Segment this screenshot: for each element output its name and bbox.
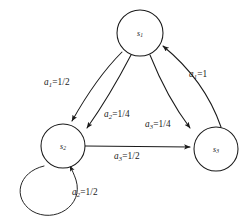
edge-label-s2-s3-a3: a3=1/2 (114, 152, 140, 161)
probability-value: 1 (203, 69, 208, 79)
edge-label-s1-s2-a1: a1=1/2 (44, 78, 70, 87)
edge-s2-to-s3-a3 (85, 146, 190, 147)
edge-label-s1-s3-a3: a3=1/4 (145, 120, 171, 129)
edge-s2-self-loop-a2 (20, 166, 77, 215)
action-subscript: 3 (119, 155, 122, 162)
edge-label-s2-self-a2: a2=1/2 (72, 188, 98, 197)
action-subscript: 3 (150, 123, 153, 130)
probability-value: 1/2 (58, 77, 70, 87)
edge-label-s3-s1-a1: a1=1 (189, 70, 207, 79)
action-subscript: 2 (109, 113, 112, 120)
probability-value: 1/4 (118, 109, 130, 119)
action-subscript: 1 (194, 73, 197, 80)
action-subscript: 1 (49, 81, 52, 88)
edge-label-s1-s2-a2: a2=1/4 (104, 110, 130, 119)
probability-value: 1/2 (128, 151, 140, 161)
probability-value: 1/2 (86, 187, 98, 197)
edge-s3-to-s1-a1 (163, 46, 221, 127)
probability-value: 1/4 (159, 119, 171, 129)
action-subscript: 2 (77, 191, 80, 198)
state-diagram-canvas: s1 s2 s3 a1=1/2 a2=1/4 a3=1/4 a1=1 a3=1/… (0, 0, 252, 221)
